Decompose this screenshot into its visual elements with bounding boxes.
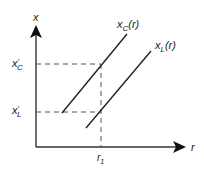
- x-tick-r1: r1: [97, 152, 104, 165]
- y-tick-xl-prime: x′L: [11, 104, 21, 119]
- curve-xc-label: xC(r): [116, 18, 140, 33]
- curve-xl: [86, 51, 151, 128]
- curve-xc: [62, 34, 127, 113]
- y-tick-xc-prime: x′C: [11, 57, 23, 72]
- diagram-canvas: x r xC(r) xL(r) x′C x′L r1: [0, 0, 204, 172]
- curve-xl-label: xL(r): [154, 39, 176, 54]
- x-axis-label: r: [191, 141, 196, 153]
- y-axis-label: x: [32, 11, 39, 23]
